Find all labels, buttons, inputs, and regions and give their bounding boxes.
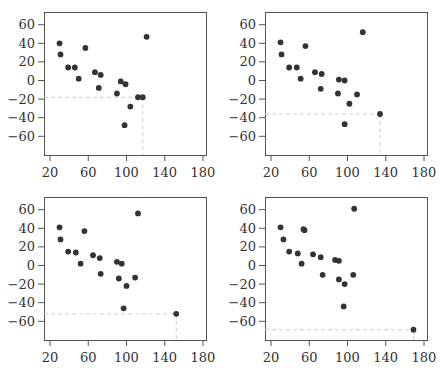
data-point [303,43,309,49]
data-point [78,261,84,267]
data-point [336,77,342,83]
y-tick-label: 0 [27,258,35,273]
y-tick-label: −40 [229,110,256,125]
data-point [299,261,305,267]
data-point [90,252,96,258]
data-point [116,276,122,282]
data-point [173,311,179,317]
y-tick-label: 0 [27,73,35,88]
y-tick-label: −20 [229,92,256,107]
x-tick-label: 20 [263,350,280,365]
y-tick-label: 0 [248,73,256,88]
data-point [122,122,128,128]
x-tick-label: 180 [191,350,216,365]
data-point [58,237,64,243]
y-tick-label: −40 [8,295,35,310]
y-tick-label: 40 [18,36,35,51]
data-point [73,250,79,256]
y-tick-label: 40 [239,36,256,51]
data-point [119,261,125,267]
data-point [96,85,102,91]
scatter-panel-top-right: 6040200−20−40−602060100140180 [221,0,441,186]
data-point [319,71,325,77]
data-point [312,69,318,75]
data-point [140,94,146,100]
x-tick-label: 140 [373,350,398,365]
data-point [342,78,348,84]
plot-frame [266,198,428,341]
data-point [360,29,366,35]
data-point [318,254,324,260]
x-tick-label: 100 [114,350,139,365]
data-point [123,81,129,87]
data-point [411,327,417,333]
y-tick-label: 60 [18,17,35,32]
data-point [377,111,383,117]
data-point [127,104,133,110]
data-point [279,52,285,58]
plot-frame [266,13,428,156]
data-point [310,251,316,257]
scatter-panel-bottom-right: 6040200−20−40−602060100140180 [221,185,441,371]
y-tick-label: −60 [8,314,35,329]
y-tick-label: 20 [239,239,256,254]
data-point [350,272,356,278]
y-tick-label: −40 [229,295,256,310]
x-tick-label: 140 [152,165,177,180]
y-tick-label: −40 [8,110,35,125]
scatter-panel-top-left: 6040200−20−40−602060100140180 [0,0,220,186]
data-point [351,206,357,212]
data-point [286,249,292,255]
data-point [341,304,347,310]
data-point [286,65,292,71]
plot-frame [45,198,207,341]
x-tick-label: 60 [301,350,318,365]
scatter-plot: 6040200−20−40−602060100140180 [221,0,441,188]
x-tick-label: 180 [412,350,437,365]
data-point [278,224,284,230]
x-tick-label: 20 [42,350,59,365]
data-point [57,224,63,230]
y-tick-label: 20 [18,54,35,69]
data-point [318,86,324,92]
y-tick-label: 40 [18,221,35,236]
data-point [144,34,150,40]
x-tick-label: 180 [412,165,437,180]
data-point [298,76,304,82]
data-point [336,258,342,264]
x-tick-label: 100 [335,350,360,365]
y-tick-label: −60 [8,129,35,144]
x-tick-label: 140 [152,350,177,365]
x-tick-label: 60 [80,165,97,180]
data-point [135,211,141,217]
data-point [295,251,301,257]
x-tick-label: 100 [114,165,139,180]
data-point [336,277,342,283]
y-tick-label: −20 [229,277,256,292]
y-tick-label: −60 [229,129,256,144]
data-point [57,40,63,46]
x-tick-label: 60 [80,350,97,365]
data-point [347,101,353,107]
data-point [124,283,130,289]
data-point [302,227,308,233]
data-point [281,237,287,243]
data-point [98,72,104,78]
y-tick-label: 40 [239,221,256,236]
data-point [65,249,71,255]
y-tick-label: 0 [248,258,256,273]
data-point [72,65,78,71]
data-point [58,52,64,58]
data-point [132,275,138,281]
x-tick-label: 20 [263,165,280,180]
y-tick-label: 60 [18,202,35,217]
data-point [76,76,82,82]
data-point [320,272,326,278]
data-point [92,69,98,75]
data-point [82,45,88,51]
data-point [65,65,71,71]
y-tick-label: −20 [8,277,35,292]
x-tick-label: 20 [42,165,59,180]
scatter-plot: 6040200−20−40−602060100140180 [221,185,441,373]
y-tick-label: 60 [239,17,256,32]
